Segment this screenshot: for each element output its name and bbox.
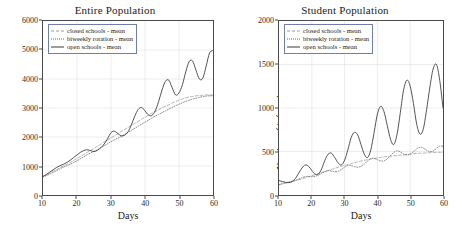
y-tick-label: 4000 xyxy=(22,74,38,83)
legend-line-solid-icon xyxy=(51,44,64,51)
x-tick-mark xyxy=(110,196,111,199)
x-tick-mark xyxy=(214,196,215,199)
x-tick-mark xyxy=(377,196,378,199)
x-tick-label: 10 xyxy=(274,199,282,208)
series-line-2 xyxy=(279,64,443,183)
x-tick-mark xyxy=(344,196,345,199)
legend-left: closed schools - meanbiweekly rotation -… xyxy=(48,24,137,54)
legend-line-dashed-icon xyxy=(287,28,300,35)
legend-item-label: open schools - mean xyxy=(67,42,121,52)
legend-right: closed schools - meanbiweekly rotation -… xyxy=(284,24,373,54)
series-line-1 xyxy=(279,146,443,185)
y-tick-mark xyxy=(39,49,42,50)
y-tick-label: 3000 xyxy=(22,104,38,113)
x-tick-mark xyxy=(76,196,77,199)
y-tick-label: 1000 xyxy=(258,104,274,113)
y-tick-mark xyxy=(275,64,278,65)
panel-title-entire-population: Entire Population xyxy=(0,4,230,16)
series-line-2 xyxy=(43,51,213,177)
x-axis-label-right: Days xyxy=(278,210,444,221)
x-tick-label: 30 xyxy=(340,199,348,208)
panel-student-population: Student Population Number of infected ag… xyxy=(230,0,460,238)
x-tick-mark xyxy=(179,196,180,199)
x-tick-mark xyxy=(42,196,43,199)
y-tick-mark xyxy=(39,20,42,21)
y-tick-mark xyxy=(39,108,42,109)
legend-line-dotted-icon xyxy=(287,36,300,43)
x-tick-label: 50 xyxy=(407,199,415,208)
x-tick-label: 50 xyxy=(176,199,184,208)
y-tick-label: 500 xyxy=(262,148,274,157)
y-tick-mark xyxy=(275,20,278,21)
x-tick-label: 40 xyxy=(141,199,149,208)
y-tick-mark xyxy=(275,152,278,153)
y-tick-label: 6000 xyxy=(22,16,38,25)
x-tick-mark xyxy=(311,196,312,199)
y-tick-label: 1000 xyxy=(22,162,38,171)
y-tick-mark xyxy=(39,166,42,167)
x-tick-mark xyxy=(410,196,411,199)
plot-wrapper-left: closed schools - meanbiweekly rotation -… xyxy=(42,20,214,196)
x-tick-mark xyxy=(145,196,146,199)
series-line-0 xyxy=(43,95,213,177)
y-tick-mark xyxy=(39,137,42,138)
x-tick-label: 10 xyxy=(38,199,46,208)
legend-line-solid-icon xyxy=(287,44,300,51)
y-tick-label: 2000 xyxy=(258,16,274,25)
x-axis-label-left: Days xyxy=(42,210,214,221)
x-tick-mark xyxy=(278,196,279,199)
x-tick-label: 40 xyxy=(374,199,382,208)
y-tick-label: 5000 xyxy=(22,45,38,54)
x-tick-label: 20 xyxy=(72,199,80,208)
y-tick-label: 1500 xyxy=(258,60,274,69)
y-tick-mark xyxy=(275,108,278,109)
legend-line-dotted-icon xyxy=(51,36,64,43)
figure-two-panel-line-charts: Entire Population Number of infected age… xyxy=(0,0,461,238)
legend-item-2[interactable]: open schools - mean xyxy=(51,43,133,51)
legend-item-label: open schools - mean xyxy=(303,42,357,52)
y-tick-label: 2000 xyxy=(22,133,38,142)
x-tick-label: 30 xyxy=(107,199,115,208)
series-line-0 xyxy=(279,152,443,185)
x-tick-mark xyxy=(444,196,445,199)
legend-item-2[interactable]: open schools - mean xyxy=(287,43,369,51)
x-tick-label: 60 xyxy=(440,199,448,208)
legend-line-dashed-icon xyxy=(51,28,64,35)
y-tick-mark xyxy=(39,78,42,79)
panel-title-student-population: Student Population xyxy=(230,4,460,16)
x-tick-label: 20 xyxy=(307,199,315,208)
x-tick-label: 60 xyxy=(210,199,218,208)
plot-wrapper-right: closed schools - meanbiweekly rotation -… xyxy=(278,20,444,196)
panel-entire-population: Entire Population Number of infected age… xyxy=(0,0,230,238)
